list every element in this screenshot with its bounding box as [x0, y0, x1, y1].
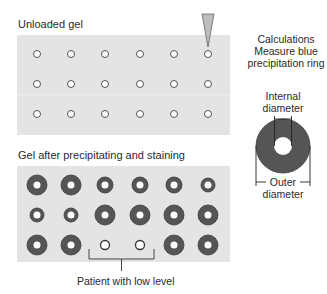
unloaded-gel-plate — [17, 35, 230, 135]
diagram-graphics — [0, 0, 327, 294]
measurement-ring-diagram — [256, 116, 310, 186]
unloaded-gel — [17, 14, 230, 135]
large-well — [274, 137, 292, 155]
stained-gel — [17, 166, 230, 271]
